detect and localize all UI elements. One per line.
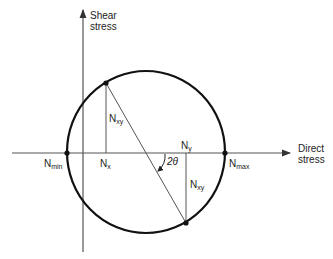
mohr-circle-diagram xyxy=(0,0,333,259)
angle-label: 2θ xyxy=(167,156,178,167)
n-min-label: Nmin xyxy=(44,158,63,172)
point-n-min xyxy=(64,150,69,155)
n-xy-bottom-label: Nxy xyxy=(190,179,204,193)
n-xy-top-label: Nxy xyxy=(109,113,123,127)
n-max-label: Nmax xyxy=(229,158,249,172)
point-top xyxy=(103,80,108,85)
n-x-label: Nx xyxy=(100,158,111,172)
point-n-max xyxy=(222,150,227,155)
angle-arc xyxy=(158,154,165,171)
direct-stress-label: Direct stress xyxy=(298,143,325,165)
point-bottom xyxy=(183,220,188,225)
n-y-label: Ny xyxy=(181,140,192,154)
shear-stress-label: Shear stress xyxy=(90,10,117,32)
